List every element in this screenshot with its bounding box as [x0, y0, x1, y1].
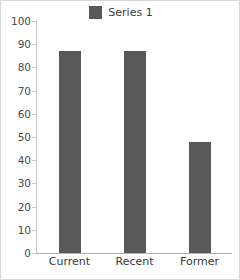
- y-tick-mark: [32, 91, 36, 92]
- x-axis-label: Former: [180, 255, 219, 268]
- y-tick-label: 20: [18, 201, 31, 212]
- x-axis-label: Current: [49, 255, 90, 268]
- bar-group: [37, 21, 232, 253]
- bar-slot: [167, 21, 232, 253]
- y-tick-mark: [32, 207, 36, 208]
- x-axis-line: [36, 253, 232, 254]
- legend-swatch-icon: [89, 6, 102, 19]
- y-tick-label: 0: [24, 248, 31, 259]
- x-axis-labels: CurrentRecentFormer: [37, 255, 232, 275]
- y-tick-mark: [32, 21, 36, 22]
- plot-area: 0102030405060708090100: [36, 21, 232, 253]
- y-tick-label: 80: [18, 62, 31, 73]
- y-tick-mark: [32, 67, 36, 68]
- legend-label: Series 1: [108, 7, 152, 18]
- y-tick-label: 100: [11, 16, 31, 27]
- y-tick-label: 90: [18, 39, 31, 50]
- bar-slot: [102, 21, 167, 253]
- y-tick-label: 50: [18, 132, 31, 143]
- x-axis-label: Recent: [115, 255, 153, 268]
- y-tick-label: 70: [18, 85, 31, 96]
- bar-slot: [37, 21, 102, 253]
- legend-entry-series-1[interactable]: Series 1: [89, 6, 152, 19]
- y-tick-mark: [32, 44, 36, 45]
- y-tick-mark: [32, 114, 36, 115]
- y-tick-mark: [32, 183, 36, 184]
- bar-chart: Series 1 0102030405060708090100 CurrentR…: [0, 0, 240, 280]
- y-tick-mark: [32, 253, 36, 254]
- bar[interactable]: [59, 51, 81, 253]
- y-tick-mark: [32, 230, 36, 231]
- y-tick-label: 60: [18, 109, 31, 120]
- y-tick-label: 10: [18, 225, 31, 236]
- bar[interactable]: [124, 51, 146, 253]
- y-tick-mark: [32, 160, 36, 161]
- y-tick-label: 30: [18, 178, 31, 189]
- y-tick-label: 40: [18, 155, 31, 166]
- y-tick-mark: [32, 137, 36, 138]
- bar[interactable]: [189, 142, 211, 253]
- chart-legend: Series 1: [1, 3, 240, 21]
